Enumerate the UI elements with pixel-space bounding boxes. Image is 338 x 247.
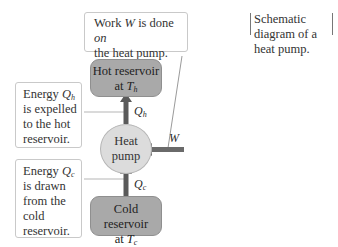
work-callout: Work W is done on the heat pump. bbox=[84, 12, 188, 52]
pump-line1: Heat bbox=[101, 134, 151, 149]
cold-callout-line2: is drawn bbox=[23, 179, 81, 194]
cold-callout-line5: reservoir. bbox=[23, 224, 81, 239]
hot-callout-line2: is expelled bbox=[23, 102, 81, 117]
cold-reservoir-line2: at Tc bbox=[91, 232, 161, 247]
w-arrow-shaft bbox=[152, 147, 184, 152]
hot-reservoir-line1: Hot reservoir bbox=[91, 64, 161, 79]
hot-reservoir-line2: at Th bbox=[91, 79, 161, 94]
caption-right-bar bbox=[332, 13, 333, 35]
pump-line2: pump bbox=[101, 149, 151, 164]
figure-caption: Schematic diagram of a heat pump. bbox=[254, 12, 330, 57]
qh-arrow-shaft bbox=[124, 100, 129, 124]
qc-label: Qc bbox=[134, 177, 146, 192]
hot-callout-line4: reservoir. bbox=[23, 132, 81, 147]
cold-reservoir-line1: Cold reservoir bbox=[91, 202, 161, 232]
caption-left-bar bbox=[250, 13, 251, 35]
work-callout-line1: Work W is done on bbox=[94, 16, 187, 46]
cold-callout-line4: cold bbox=[23, 209, 81, 224]
hot-callout-line3: to the hot bbox=[23, 117, 81, 132]
cold-callout-line1: Energy Qc bbox=[23, 164, 81, 179]
qh-label: Qh bbox=[134, 104, 147, 119]
hot-energy-callout: Energy Qh is expelled to the hot reservo… bbox=[15, 82, 82, 148]
hot-reservoir: Hot reservoir at Th bbox=[90, 59, 162, 97]
cold-energy-callout: Energy Qc is drawn from the cold reservo… bbox=[15, 159, 82, 238]
cold-reservoir: Cold reservoir at Tc bbox=[90, 196, 162, 236]
caption-line1: Schematic diagram of a bbox=[254, 12, 330, 42]
w-label: W bbox=[169, 131, 179, 146]
cold-callout-line3: from the bbox=[23, 194, 81, 209]
hot-callout-line1: Energy Qh bbox=[23, 87, 81, 102]
heat-pump: Heat pump bbox=[100, 124, 152, 174]
caption-line2: heat pump. bbox=[254, 42, 330, 57]
